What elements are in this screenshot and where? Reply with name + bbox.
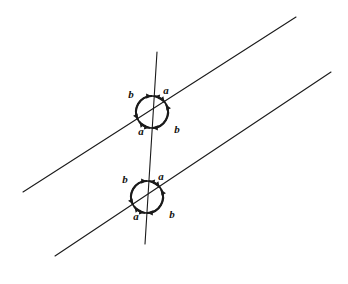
lower-b-bottom-right: b [169,209,175,220]
upper-b-bottom-right: b [174,124,180,135]
upper-a-bottom-left: a [138,126,144,137]
lower-b-top-left: b [122,174,128,185]
upper-b-top-left: b [128,89,134,100]
upper-a-top-right: a [163,85,169,96]
diagram-background [0,0,348,284]
lower-a-bottom-left: a [133,211,139,222]
angle-diagram: abababab [0,0,348,284]
geometry-canvas [0,0,348,284]
lower-a-top-right: a [158,171,164,182]
